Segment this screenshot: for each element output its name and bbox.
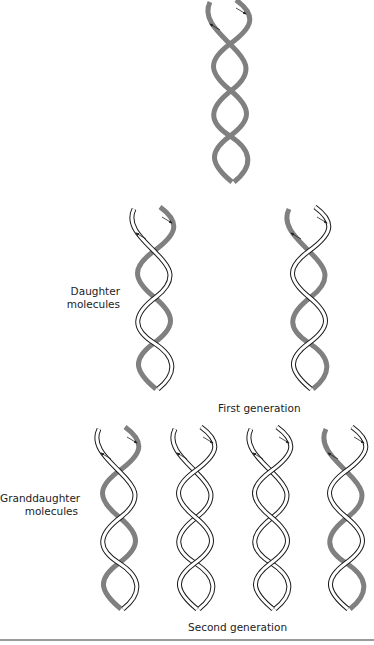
daughter-helix-1 [124,205,184,395]
granddaughter-molecules-label: Granddaughter molecules [0,492,78,518]
daughter-molecules-label: Daughter molecules [45,285,120,311]
second-generation-label: Second generation [188,621,287,634]
daughter-helix-2 [279,205,339,395]
granddaughter-helix-4 [316,425,374,615]
granddaughter-helix-2 [165,425,225,615]
bottom-divider [0,639,374,641]
parent-dna-helix [200,0,260,188]
granddaughter-helix-1 [89,425,149,615]
first-generation-label: First generation [218,402,301,415]
granddaughter-helix-3 [241,425,301,615]
